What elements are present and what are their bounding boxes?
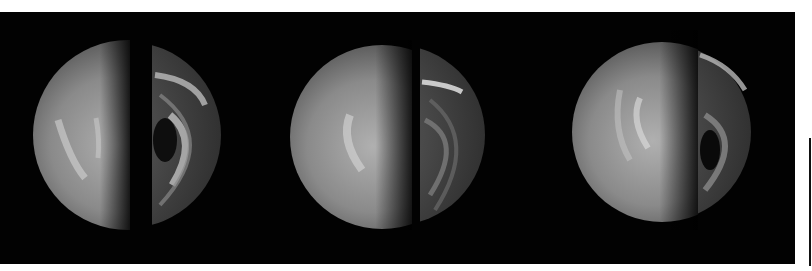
venus-composite-figure — [0, 0, 812, 271]
venus-panel-1 — [30, 40, 223, 230]
venus-panel-2 — [290, 40, 485, 230]
venus-panel-3 — [570, 30, 752, 230]
